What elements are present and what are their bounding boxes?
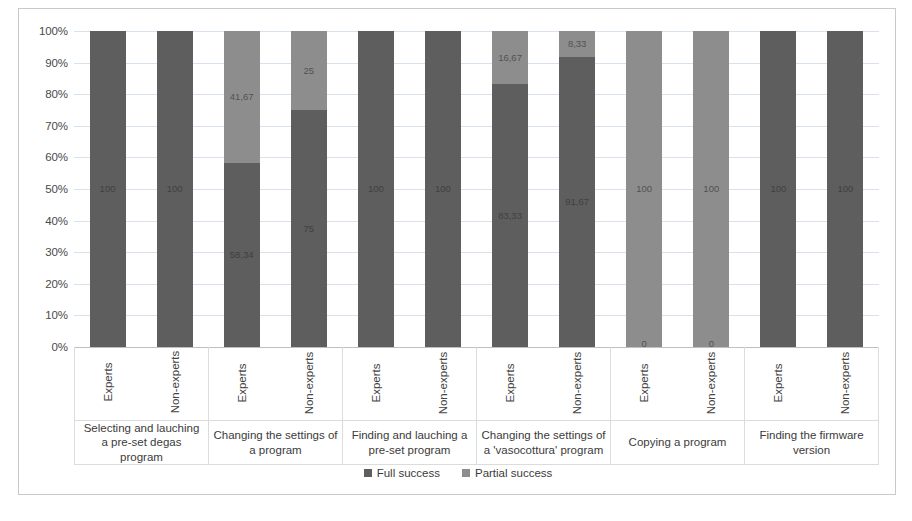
bar-slot[interactable]: 58,3441,67 — [224, 31, 260, 347]
stacked-bar-chart: 100%90%80%70%60%50%40%30%20%10%0% 100100… — [0, 0, 912, 521]
bar-segment-full-success[interactable]: 100 — [827, 31, 863, 347]
bar-stack[interactable]: 58,3441,67 — [224, 31, 260, 347]
subcategory-tick: Non-experts — [693, 347, 729, 420]
subcategory-label: Experts — [370, 343, 382, 423]
subcategory-label: Non-experts — [705, 343, 717, 423]
subcategory-row: ExpertsNon-experts — [343, 347, 476, 421]
bar-segment-partial-success[interactable]: 25 — [291, 31, 327, 110]
bar-segment-partial-success[interactable]: 100 — [626, 31, 662, 347]
bar-stack[interactable]: 83,3316,67 — [492, 31, 528, 347]
bar-value-label: 100 — [838, 184, 854, 194]
bar-stack[interactable]: 100 — [358, 31, 394, 347]
bar-slot[interactable]: 91,678,33 — [559, 31, 595, 347]
legend-label: Full success — [377, 467, 440, 479]
bar-slot[interactable]: 1000 — [693, 31, 729, 347]
legend-item[interactable]: Full success — [364, 467, 440, 479]
legend-swatch-icon — [364, 469, 372, 477]
bar-slot[interactable]: 100 — [90, 31, 126, 347]
subcategory-label: Non-experts — [839, 343, 851, 423]
y-tick-label: 30% — [45, 246, 68, 258]
bar-stack[interactable]: 7525 — [291, 31, 327, 347]
bars-layer: 10010058,3441,67752510010083,3316,6791,6… — [74, 31, 879, 347]
y-tick-label: 20% — [45, 278, 68, 290]
y-tick-label: 60% — [45, 151, 68, 163]
bar-value-label: 58,34 — [230, 250, 254, 260]
bar-slot[interactable]: 83,3316,67 — [492, 31, 528, 347]
bar-slot[interactable]: 100 — [157, 31, 193, 347]
bar-segment-full-success[interactable]: 100 — [358, 31, 394, 347]
bar-value-label: 16,67 — [498, 53, 522, 63]
y-tick-label: 100% — [39, 25, 68, 37]
category-label: Finding and lauching a pre-set program — [343, 421, 476, 464]
bar-group: 58,3441,677525 — [208, 31, 342, 347]
bar-stack[interactable]: 100 — [760, 31, 796, 347]
bar-value-label: 100 — [770, 184, 786, 194]
category-label: Copying a program — [611, 421, 744, 464]
bar-stack[interactable]: 100 — [157, 31, 193, 347]
bar-value-label: 8,33 — [568, 39, 587, 49]
bar-group: 100100 — [745, 31, 879, 347]
bar-slot[interactable]: 100 — [760, 31, 796, 347]
subcategory-tick: Experts — [626, 347, 662, 420]
subcategory-row: ExpertsNon-experts — [75, 347, 208, 421]
bar-stack[interactable]: 100 — [693, 31, 729, 347]
y-tick-label: 70% — [45, 120, 68, 132]
y-tick-label: 80% — [45, 88, 68, 100]
category-label: Changing the settings of a 'vasocottura'… — [477, 421, 610, 464]
chart-legend: Full successPartial success — [19, 467, 897, 479]
subcategory-label: Non-experts — [169, 342, 181, 422]
bar-segment-full-success[interactable]: 91,67 — [559, 57, 595, 347]
category-group: ExpertsNon-expertsChanging the settings … — [208, 347, 342, 465]
bar-segment-partial-success[interactable]: 100 — [693, 31, 729, 347]
category-group: ExpertsNon-expertsChanging the settings … — [476, 347, 610, 465]
y-tick-label: 50% — [45, 183, 68, 195]
subcategory-tick: Experts — [492, 347, 528, 420]
bar-segment-partial-success[interactable]: 41,67 — [224, 31, 260, 163]
bar-segment-partial-success[interactable]: 16,67 — [492, 31, 528, 84]
y-tick-label: 40% — [45, 215, 68, 227]
bar-value-label: 100 — [435, 184, 451, 194]
subcategory-label: Experts — [102, 342, 114, 422]
y-axis: 100%90%80%70%60%50%40%30%20%10%0% — [24, 31, 68, 347]
bar-value-label: 100 — [703, 184, 719, 194]
bar-segment-full-success[interactable]: 100 — [760, 31, 796, 347]
bar-segment-full-success[interactable]: 100 — [157, 31, 193, 347]
bar-slot[interactable]: 100 — [425, 31, 461, 347]
subcategory-row: ExpertsNon-experts — [611, 347, 744, 421]
bar-segment-full-success[interactable]: 75 — [291, 110, 327, 347]
category-group: ExpertsNon-expertsSelecting and lauching… — [74, 347, 208, 465]
subcategory-tick: Non-experts — [425, 347, 461, 420]
bar-segment-full-success[interactable]: 100 — [90, 31, 126, 347]
y-tick-label: 90% — [45, 57, 68, 69]
bar-value-label: 91,67 — [565, 197, 589, 207]
subcategory-label: Non-experts — [437, 343, 449, 423]
bar-stack[interactable]: 100 — [90, 31, 126, 347]
subcategory-tick: Non-experts — [157, 347, 193, 420]
subcategory-label: Experts — [638, 343, 650, 423]
bar-stack[interactable]: 100 — [626, 31, 662, 347]
bar-segment-full-success[interactable]: 83,33 — [492, 84, 528, 347]
legend-item[interactable]: Partial success — [462, 467, 552, 479]
subcategory-tick: Experts — [90, 347, 126, 420]
bar-slot[interactable]: 7525 — [291, 31, 327, 347]
category-label: Finding the firmware version — [745, 421, 878, 464]
bar-segment-partial-success[interactable]: 8,33 — [559, 31, 595, 57]
bar-stack[interactable]: 100 — [827, 31, 863, 347]
subcategory-tick: Experts — [224, 347, 260, 420]
bar-stack[interactable]: 100 — [425, 31, 461, 347]
y-tick-label: 10% — [45, 309, 68, 321]
bar-slot[interactable]: 100 — [827, 31, 863, 347]
bar-value-label: 100 — [636, 184, 652, 194]
subcategory-tick: Non-experts — [291, 347, 327, 420]
bar-group: 100100 — [74, 31, 208, 347]
bar-segment-full-success[interactable]: 100 — [425, 31, 461, 347]
bar-stack[interactable]: 91,678,33 — [559, 31, 595, 347]
bar-value-label: 100 — [100, 184, 116, 194]
legend-swatch-icon — [462, 469, 470, 477]
bar-slot[interactable]: 100 — [358, 31, 394, 347]
bar-value-label: 75 — [303, 224, 314, 234]
bar-segment-full-success[interactable]: 58,34 — [224, 163, 260, 347]
bar-slot[interactable]: 1000 — [626, 31, 662, 347]
category-axis: ExpertsNon-expertsSelecting and lauching… — [74, 347, 879, 465]
subcategory-label: Non-experts — [303, 343, 315, 423]
